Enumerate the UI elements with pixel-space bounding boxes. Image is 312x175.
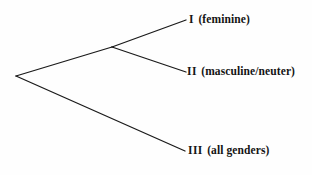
tip-gloss-iii: (all genders) — [207, 144, 269, 156]
tip-gloss-i: (feminine) — [198, 13, 249, 25]
tip-numeral-i: I — [189, 13, 194, 25]
tip-gloss-ii: (masculine/neuter) — [201, 65, 295, 77]
tip-label-ii: II(masculine/neuter) — [187, 65, 295, 77]
tip-label-iii: III(all genders) — [188, 144, 269, 156]
tip-label-i: I(feminine) — [189, 13, 250, 25]
branch-root-to-tip-iii — [112, 47, 186, 72]
tip-numeral-iii: III — [188, 144, 203, 156]
branch-internal-to-tip-i — [16, 76, 185, 151]
tree-diagram-canvas: I(feminine) II(masculine/neuter) III(all… — [0, 0, 312, 175]
branch-internal-to-tip-ii — [112, 20, 186, 47]
tip-numeral-ii: II — [187, 65, 197, 77]
branch-root-to-internal — [16, 47, 112, 76]
